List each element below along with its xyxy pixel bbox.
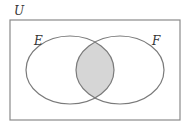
set-e-label: E — [33, 34, 43, 48]
set-f-label: F — [151, 34, 161, 48]
venn-diagram: U E F — [0, 0, 190, 124]
universe-label: U — [14, 4, 25, 18]
